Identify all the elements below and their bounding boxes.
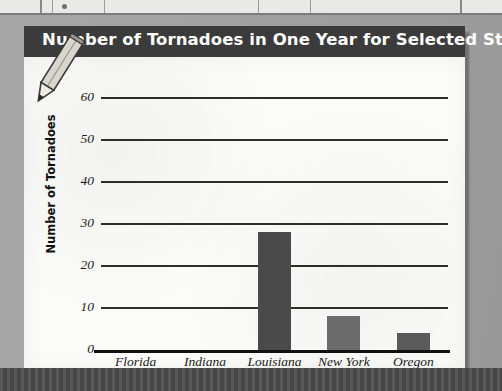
chart-figure: Number of Tornadoes in One Year for Sele… xyxy=(24,26,465,370)
toolbar-knob-icon xyxy=(62,4,67,9)
y-axis-title: Number of Tornadoes xyxy=(44,89,58,279)
toolbar-divider-4 xyxy=(310,0,311,13)
bar-new-york xyxy=(327,316,360,350)
toolbar-right-edge xyxy=(460,0,462,13)
bar-louisiana xyxy=(258,232,291,350)
toolbar-divider-1 xyxy=(52,0,53,13)
toolbar-divider-3 xyxy=(258,0,259,13)
toolbar-divider-2 xyxy=(104,0,105,13)
cropped-toolbar-strip xyxy=(0,0,502,15)
bars-group xyxy=(24,57,465,350)
page-title: Number of Tornadoes in One Year for Sele… xyxy=(42,30,462,49)
chart-plot-card: 0102030405060 FloridaIndianaLouisianaNew… xyxy=(24,57,465,370)
x-axis-line xyxy=(94,350,450,353)
chart-title-bar: Number of Tornadoes in One Year for Sele… xyxy=(24,26,465,57)
chart-plot-area: 0102030405060 FloridaIndianaLouisianaNew… xyxy=(24,57,465,370)
page-bottom-band xyxy=(0,368,502,391)
toolbar-left-edge xyxy=(40,0,42,13)
bar-oregon xyxy=(397,333,430,350)
